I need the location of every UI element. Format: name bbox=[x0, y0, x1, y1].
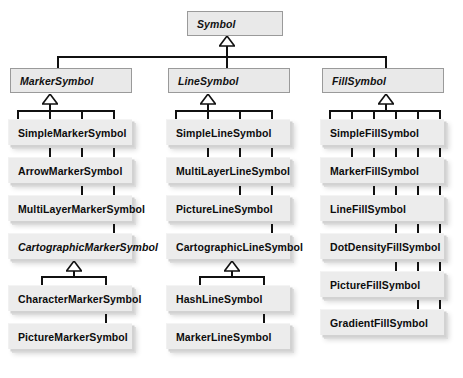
connector-marker-branch-3 bbox=[81, 110, 83, 119]
class-box-multilayermarkersymbol[interactable]: MultiLayerMarkerSymbol bbox=[8, 195, 132, 221]
connector-tick-fill-c2 bbox=[417, 224, 419, 233]
connector-tick-fill-a5 bbox=[439, 148, 441, 157]
connector-tick-fill-b1 bbox=[373, 186, 375, 195]
connector-tick-marker-b1 bbox=[81, 186, 83, 195]
class-name-label: CharacterMarkerSymbol bbox=[18, 293, 142, 305]
class-name-label: DotDensityFillSymbol bbox=[330, 241, 441, 253]
class-box-picturefillsymbol[interactable]: PictureFillSymbol bbox=[320, 271, 444, 297]
class-box-picturelinesymbol[interactable]: PictureLineSymbol bbox=[166, 195, 290, 221]
class-name-label: SimpleFillSymbol bbox=[330, 127, 419, 139]
class-box-linesymbol[interactable]: LineSymbol bbox=[168, 68, 290, 93]
connector-fill-bus bbox=[329, 110, 441, 112]
connector-cms-branch-1 bbox=[41, 276, 43, 285]
connector-tick-fill-b3 bbox=[417, 186, 419, 195]
class-name-label: CartographicMarkerSymbol bbox=[18, 241, 158, 253]
class-box-multilayerlinesymbol[interactable]: MultiLayerLineSymbol bbox=[166, 157, 290, 183]
connector-tick-marker-b2 bbox=[113, 186, 115, 195]
class-name-label: MarkerLineSymbol bbox=[176, 331, 272, 343]
connector-fill-branch-6 bbox=[439, 110, 441, 119]
connector-tick-line-a3 bbox=[271, 148, 273, 157]
class-box-simplemarkersymbol[interactable]: SimpleMarkerSymbol bbox=[8, 119, 132, 145]
connector-line-branch-3 bbox=[239, 110, 241, 119]
class-box-simplelinesymbol[interactable]: SimpleLineSymbol bbox=[166, 119, 290, 145]
class-box-hashlinesymbol[interactable]: HashLineSymbol bbox=[166, 285, 290, 311]
connector-tick-line-a1 bbox=[207, 148, 209, 157]
connector-tick-fill-d1 bbox=[395, 262, 397, 271]
connector-tick-line-a2 bbox=[239, 148, 241, 157]
connector-line-branch-1 bbox=[175, 110, 177, 119]
connector-fill-branch-3 bbox=[373, 110, 375, 119]
class-name-label: GradientFillSymbol bbox=[330, 317, 428, 329]
connector-fill-branch-2 bbox=[351, 110, 353, 119]
class-name-label: SimpleMarkerSymbol bbox=[18, 127, 127, 139]
connector-main-bus bbox=[57, 56, 387, 58]
class-name-label: PictureMarkerSymbol bbox=[18, 331, 128, 343]
class-name-label: LineFillSymbol bbox=[330, 203, 406, 215]
class-name-label: MarkerFillSymbol bbox=[330, 165, 419, 177]
connector-tick-line-d1 bbox=[263, 314, 265, 323]
connector-cls-branch-2 bbox=[263, 276, 265, 285]
class-name-label: MultiLayerMarkerSymbol bbox=[18, 203, 145, 215]
connector-marker-branch-1 bbox=[17, 110, 19, 119]
connector-tick-fill-e1 bbox=[417, 300, 419, 309]
class-box-simplefillsymbol[interactable]: SimpleFillSymbol bbox=[320, 119, 444, 145]
connector-marker-branch-2 bbox=[49, 110, 51, 119]
connector-tick-line-b2 bbox=[271, 186, 273, 195]
connector-tick-fill-a3 bbox=[395, 148, 397, 157]
connector-tick-fill-b2 bbox=[395, 186, 397, 195]
connector-fill-branch-5 bbox=[417, 110, 419, 119]
connector-tick-marker-c1 bbox=[113, 224, 115, 233]
connector-tick-fill-d3 bbox=[439, 262, 441, 271]
class-box-picturemarkersymbol[interactable]: PictureMarkerSymbol bbox=[8, 323, 132, 349]
class-box-markerfillsymbol[interactable]: MarkerFillSymbol bbox=[320, 157, 444, 183]
connector-tick-fill-c1 bbox=[395, 224, 397, 233]
connector-tick-fill-e2 bbox=[439, 300, 441, 309]
uml-diagram-canvas: Symbol MarkerSymbol LineSymbol FillSymbo… bbox=[0, 0, 463, 378]
class-name-label: PictureLineSymbol bbox=[176, 203, 273, 215]
connector-cms-bus bbox=[41, 276, 107, 278]
class-box-symbol[interactable]: Symbol bbox=[187, 11, 283, 36]
class-box-charactermarkersymbol[interactable]: CharacterMarkerSymbol bbox=[8, 285, 132, 311]
connector-marker-branch-4 bbox=[113, 110, 115, 119]
connector-cms-branch-2 bbox=[105, 276, 107, 285]
connector-fill-branch-1 bbox=[329, 110, 331, 119]
class-box-linefillsymbol[interactable]: LineFillSymbol bbox=[320, 195, 444, 221]
connector-tick-fill-a4 bbox=[417, 148, 419, 157]
connector-line-branch-4 bbox=[271, 110, 273, 119]
class-box-dotdensityfillsymbol[interactable]: DotDensityFillSymbol bbox=[320, 233, 444, 259]
class-name-label: FillSymbol bbox=[332, 75, 386, 87]
connector-tick-marker-a1 bbox=[49, 148, 51, 157]
class-name-label: PictureFillSymbol bbox=[330, 279, 420, 291]
connector-tick-fill-a1 bbox=[351, 148, 353, 157]
class-name-label: HashLineSymbol bbox=[176, 293, 263, 305]
connector-tick-fill-b4 bbox=[439, 186, 441, 195]
connector-tick-line-b1 bbox=[239, 186, 241, 195]
connector-tick-fill-a2 bbox=[373, 148, 375, 157]
class-name-label: SimpleLineSymbol bbox=[176, 127, 272, 139]
class-name-label: MultiLayerLineSymbol bbox=[176, 165, 290, 177]
connector-fill-branch-4 bbox=[395, 110, 397, 119]
connector-line-bus bbox=[175, 110, 273, 112]
connector-cls-branch-1 bbox=[199, 276, 201, 285]
connector-marker-bus bbox=[17, 110, 115, 112]
connector-tick-marker-d1 bbox=[105, 314, 107, 323]
connector-tick-marker-a3 bbox=[113, 148, 115, 157]
class-name-label: MarkerSymbol bbox=[20, 75, 94, 87]
class-box-markersymbol[interactable]: MarkerSymbol bbox=[10, 68, 132, 93]
class-box-markerlinesymbol[interactable]: MarkerLineSymbol bbox=[166, 323, 290, 349]
connector-cls-bus bbox=[199, 276, 265, 278]
class-name-label: CartographicLineSymbol bbox=[176, 241, 303, 253]
connector-tick-fill-d2 bbox=[417, 262, 419, 271]
class-box-arrowmarkersymbol[interactable]: ArrowMarkerSymbol bbox=[8, 157, 132, 183]
class-name-label: Symbol bbox=[197, 18, 236, 30]
class-box-cartographiclinesymbol[interactable]: CartographicLineSymbol bbox=[166, 233, 290, 259]
class-name-label: LineSymbol bbox=[178, 75, 239, 87]
connector-line-branch-2 bbox=[207, 110, 209, 119]
class-name-label: ArrowMarkerSymbol bbox=[18, 165, 122, 177]
connector-tick-marker-a2 bbox=[81, 148, 83, 157]
class-box-cartographicmarkersymbol[interactable]: CartographicMarkerSymbol bbox=[8, 233, 132, 259]
class-box-fillsymbol[interactable]: FillSymbol bbox=[322, 68, 444, 93]
class-box-gradientfillsymbol[interactable]: GradientFillSymbol bbox=[320, 309, 444, 335]
connector-tick-line-c1 bbox=[271, 224, 273, 233]
connector-tick-fill-c3 bbox=[439, 224, 441, 233]
